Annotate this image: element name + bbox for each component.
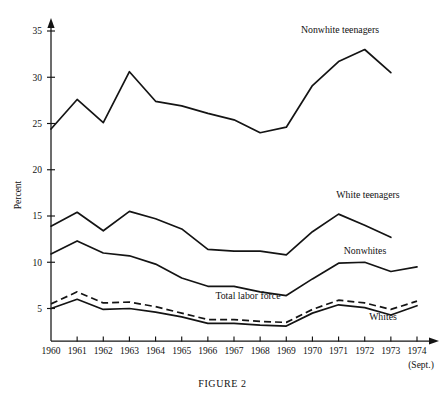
y-axis-title: Percent xyxy=(13,180,23,209)
x-tick-label: 1963 xyxy=(120,346,139,356)
series-label-whites: Whites xyxy=(369,311,397,322)
y-tick-label: 25 xyxy=(33,119,43,129)
series-label-nonwhites: Nonwhites xyxy=(344,245,387,256)
axis-titles: Percent xyxy=(13,180,23,209)
x-tick-label: 1967 xyxy=(225,346,244,356)
x-axis-note: (Sept.) xyxy=(408,360,434,371)
y-tick-label: 10 xyxy=(33,258,43,268)
x-tick-label: 1961 xyxy=(68,346,87,356)
series-line-nonwhite-teenagers xyxy=(51,50,391,133)
figure-caption: FIGURE 2 xyxy=(0,378,445,389)
y-tick-label: 30 xyxy=(33,73,43,83)
x-tick-label: 1965 xyxy=(172,346,191,356)
series-label-white-teenagers: White teenagers xyxy=(336,189,400,200)
y-tick-label: 15 xyxy=(33,211,43,221)
figure-container: 5101520253035 19601961196219631964196519… xyxy=(0,0,445,393)
series-label-nonwhite-teenagers: Nonwhite teenagers xyxy=(301,24,379,35)
chart-series-lines xyxy=(51,50,417,327)
x-tick-label: 1971 xyxy=(329,346,348,356)
x-tick-label: 1968 xyxy=(251,346,270,356)
x-tick-label: 1974 xyxy=(408,346,427,356)
x-tick-label: 1973 xyxy=(381,346,400,356)
x-tick-label: 1964 xyxy=(146,346,165,356)
line-chart: 5101520253035 19601961196219631964196519… xyxy=(0,0,445,393)
x-tick-label: 1962 xyxy=(94,346,113,356)
x-tick-label: 1969 xyxy=(277,346,296,356)
x-tick-label: 1972 xyxy=(355,346,374,356)
y-axis-arrowhead xyxy=(47,18,54,28)
series-line-white-teenagers xyxy=(51,211,391,254)
y-tick-label: 20 xyxy=(33,165,43,175)
x-axis-arrowhead xyxy=(429,337,439,344)
y-tick-label: 5 xyxy=(37,304,42,314)
series-label-total-labor-force: Total labor force xyxy=(215,290,281,301)
series-annotations: Nonwhite teenagersWhite teenagersNonwhit… xyxy=(215,24,399,322)
y-tick-label: 35 xyxy=(33,26,43,36)
x-tick-label: 1966 xyxy=(198,346,217,356)
x-axis-ticks: 1960196119621963196419651966196719681969… xyxy=(42,337,434,372)
x-tick-label: 1970 xyxy=(303,346,322,356)
x-tick-label: 1960 xyxy=(42,346,61,356)
